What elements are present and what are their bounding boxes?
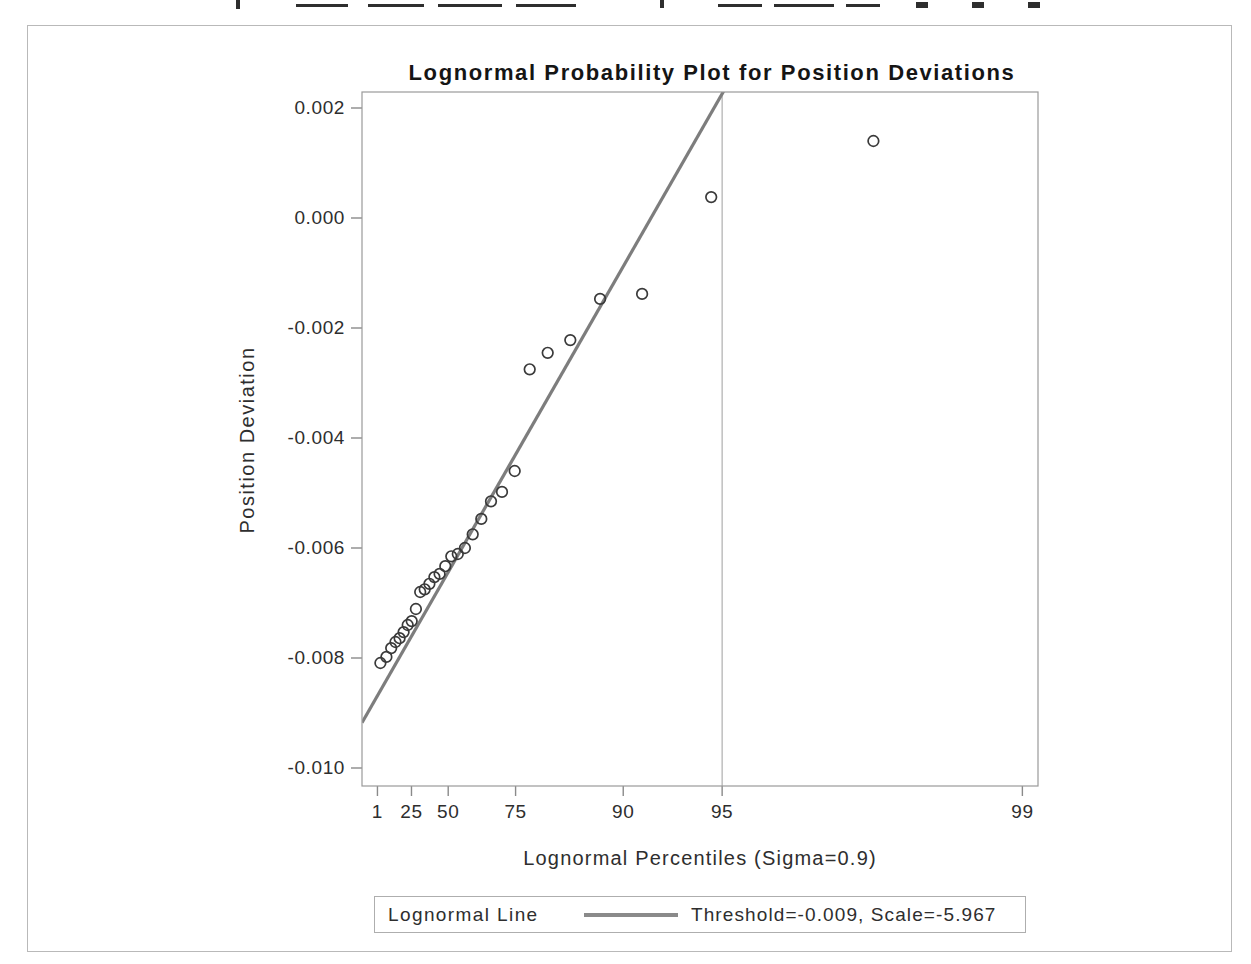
x-tick-label: 90 bbox=[612, 801, 634, 823]
y-tick-label: -0.006 bbox=[288, 536, 345, 560]
y-tick-label: -0.004 bbox=[288, 426, 345, 450]
data-point bbox=[637, 289, 648, 300]
probability-plot-figure: Lognormal Probability Plot for Position … bbox=[0, 0, 1251, 964]
data-point bbox=[706, 192, 717, 203]
x-tick-label: 95 bbox=[711, 801, 733, 823]
x-axis-title: Lognormal Percentiles (Sigma=0.9) bbox=[362, 847, 1038, 870]
data-point bbox=[565, 335, 576, 346]
y-tick-label: -0.010 bbox=[288, 756, 345, 780]
data-point bbox=[411, 604, 422, 615]
x-tick-label: 1 bbox=[372, 801, 383, 823]
y-tick-label: -0.008 bbox=[288, 646, 345, 670]
legend-box: Lognormal Line Threshold=-0.009, Scale=-… bbox=[374, 896, 1026, 933]
data-point bbox=[868, 136, 879, 147]
y-tick-label: -0.002 bbox=[288, 316, 345, 340]
data-point bbox=[446, 551, 457, 562]
legend-series-label: Lognormal Line bbox=[388, 897, 539, 932]
x-tick-label: 75 bbox=[504, 801, 526, 823]
data-point bbox=[524, 364, 535, 375]
y-tick-label: 0.000 bbox=[294, 206, 345, 230]
x-tick-label: 99 bbox=[1011, 801, 1033, 823]
x-tick-label: 25 bbox=[400, 801, 422, 823]
lognormal-fit-line bbox=[362, 85, 727, 723]
data-point bbox=[375, 658, 386, 669]
data-point bbox=[542, 348, 553, 359]
data-point bbox=[509, 466, 520, 477]
legend-line-swatch bbox=[584, 913, 678, 917]
x-tick-label: 50 bbox=[437, 801, 459, 823]
legend-fit-parameters: Threshold=-0.009, Scale=-5.967 bbox=[691, 897, 997, 932]
plot-frame bbox=[362, 92, 1038, 786]
y-tick-label: 0.002 bbox=[294, 96, 345, 120]
data-point bbox=[440, 561, 451, 572]
data-point bbox=[497, 487, 508, 498]
